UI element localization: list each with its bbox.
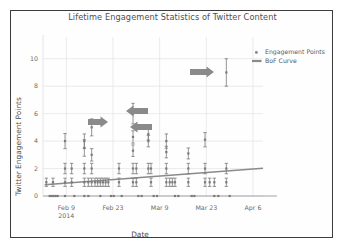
data-point xyxy=(97,181,99,183)
data-point xyxy=(225,167,227,169)
data-point xyxy=(73,195,75,197)
data-point xyxy=(171,181,173,183)
data-point xyxy=(94,181,96,183)
data-point xyxy=(132,150,134,152)
data-point xyxy=(177,195,179,197)
plot-area xyxy=(0,0,345,251)
data-point xyxy=(187,181,189,183)
data-point xyxy=(102,181,104,183)
data-point xyxy=(165,151,167,153)
data-point xyxy=(153,195,155,197)
data-point xyxy=(156,195,158,197)
data-point xyxy=(91,181,93,183)
data-point xyxy=(71,181,73,183)
data-point xyxy=(191,195,193,197)
legend-square-marker xyxy=(255,51,257,53)
data-point xyxy=(118,181,120,183)
gridlines xyxy=(43,37,263,196)
data-point xyxy=(229,195,231,197)
data-point xyxy=(110,195,112,197)
data-point xyxy=(193,195,195,197)
data-point xyxy=(204,139,206,141)
data-point xyxy=(99,195,101,197)
data-point xyxy=(165,140,167,142)
data-point xyxy=(132,167,134,169)
data-point xyxy=(91,126,93,128)
data-point xyxy=(147,167,149,169)
data-point xyxy=(118,167,120,169)
data-point xyxy=(49,195,51,197)
data-point xyxy=(169,181,171,183)
data-point xyxy=(99,181,101,183)
data-point xyxy=(165,181,167,183)
data-point xyxy=(204,181,206,183)
data-point xyxy=(213,195,215,197)
data-point xyxy=(64,195,66,197)
data-point xyxy=(51,195,53,197)
data-point xyxy=(165,167,167,169)
legend-markers xyxy=(252,48,344,72)
bof-trend-line xyxy=(45,168,263,184)
arrow-right-mar28 xyxy=(190,66,214,77)
arrow-left-mar6 xyxy=(126,105,148,116)
data-point xyxy=(52,181,54,183)
data-point xyxy=(209,181,211,183)
data-point xyxy=(213,181,215,183)
arrow-right-feb17 xyxy=(88,116,108,127)
data-point xyxy=(150,181,152,183)
data-point xyxy=(87,195,89,197)
data-point xyxy=(141,195,143,197)
data-point xyxy=(91,154,93,156)
data-point xyxy=(105,181,107,183)
data-point xyxy=(64,167,66,169)
data-point xyxy=(187,152,189,154)
data-point xyxy=(64,140,66,142)
data-point xyxy=(174,181,176,183)
data-point xyxy=(45,181,47,183)
data-point xyxy=(83,167,85,169)
data-point xyxy=(187,167,189,169)
data-point xyxy=(150,167,152,169)
data-point xyxy=(121,195,123,197)
data-point xyxy=(225,71,227,73)
chart-figure: Lifetime Engagement Statistics of Twitte… xyxy=(0,0,345,251)
data-point xyxy=(225,181,227,183)
data-point xyxy=(83,195,85,197)
data-point xyxy=(132,136,134,138)
data-point xyxy=(83,181,85,183)
data-point xyxy=(174,195,176,197)
data-point xyxy=(204,167,206,169)
data-point xyxy=(107,181,109,183)
data-point xyxy=(91,167,93,169)
data-point xyxy=(135,167,137,169)
data-point xyxy=(132,181,134,183)
data-point xyxy=(217,195,219,197)
data-point xyxy=(87,181,89,183)
data-point xyxy=(137,195,139,197)
data-point xyxy=(53,195,55,197)
data-point xyxy=(83,147,85,149)
data-point xyxy=(147,140,149,142)
data-point xyxy=(64,181,66,183)
data-point xyxy=(71,167,73,169)
data-point xyxy=(57,195,59,197)
data-point xyxy=(113,195,115,197)
data-point xyxy=(55,195,57,197)
data-point xyxy=(135,181,137,183)
